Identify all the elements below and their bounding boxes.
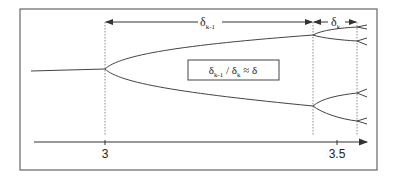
diagram-frame bbox=[20, 9, 377, 170]
bifurcation-diagram: δk-1 δk δk-1 / δk ≈ δ 3 3.5 bbox=[0, 0, 394, 177]
tick-label-3-5: 3.5 bbox=[329, 147, 346, 161]
tick-label-3: 3 bbox=[102, 147, 109, 161]
